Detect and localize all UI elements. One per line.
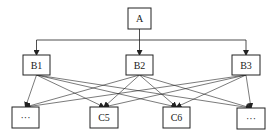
node-b3: B3: [232, 55, 260, 75]
edge-b2-c6: [140, 75, 177, 107]
edge-b2-c1: [26, 75, 140, 107]
diagram-svg: AB1B2B3···C5C6···: [0, 0, 279, 140]
hierarchy-diagram: AB1B2B3···C5C6···: [0, 0, 279, 140]
edge-b1-c5: [37, 75, 105, 107]
node-label: ···: [21, 112, 31, 123]
node-label: B1: [31, 60, 43, 71]
node-label: C5: [98, 112, 110, 123]
node-label: B2: [134, 60, 146, 71]
node-label: ···: [246, 113, 256, 124]
edge-b1-c1: [26, 75, 37, 107]
edge-b3-c8: [246, 75, 251, 108]
node-label: B3: [240, 60, 252, 71]
node-label: C6: [171, 112, 183, 123]
nodes: AB1B2B3···C5C6···: [12, 8, 265, 129]
edge-b2-c8: [140, 75, 252, 108]
edge-b3-c5: [104, 75, 246, 107]
node-c8: ···: [237, 108, 265, 129]
node-label: A: [136, 13, 144, 24]
node-c6: C6: [163, 107, 190, 128]
node-c5: C5: [90, 107, 118, 128]
node-b1: B1: [23, 55, 50, 75]
edge-b1-c8: [37, 75, 252, 108]
node-b2: B2: [126, 55, 153, 75]
node-a: A: [128, 8, 151, 29]
node-c1: ···: [12, 107, 39, 128]
